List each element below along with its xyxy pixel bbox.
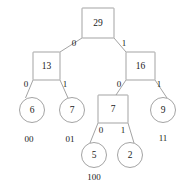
node-13-label: 13 (42, 61, 52, 71)
edge-label-7-right: 1 (121, 125, 126, 135)
huffman-tree-figure: 29 13 16 7 6 7 9 5 2 0 1 0 1 0 1 0 1 00 … (0, 0, 185, 189)
edge-7-to-5 (90, 123, 98, 143)
node-2-label: 2 (128, 150, 133, 160)
edge-label-root-right: 1 (122, 38, 127, 48)
edge-label-root-left: 0 (72, 38, 77, 48)
code-label-00: 00 (25, 134, 35, 144)
edge-label-13-right: 1 (63, 79, 68, 89)
edge-label-16-left: 0 (117, 79, 122, 89)
node-root-label: 29 (93, 18, 103, 28)
code-label-100: 100 (87, 172, 101, 182)
node-6-label: 6 (30, 105, 35, 115)
edge-7-to-2 (128, 123, 134, 143)
node-16-label: 16 (136, 61, 146, 71)
node-7-square-label: 7 (111, 104, 116, 114)
edge-label-7-left: 0 (99, 125, 104, 135)
node-7-circle-label: 7 (70, 105, 75, 115)
tree-canvas: 29 13 16 7 6 7 9 5 2 0 1 0 1 0 1 0 1 00 … (0, 0, 185, 189)
node-5-label: 5 (92, 150, 97, 160)
node-9-label: 9 (161, 105, 166, 115)
code-label-11: 11 (159, 133, 168, 143)
edge-label-16-right: 1 (157, 79, 162, 89)
code-label-01: 01 (66, 134, 75, 144)
edge-label-13-left: 0 (24, 79, 29, 89)
